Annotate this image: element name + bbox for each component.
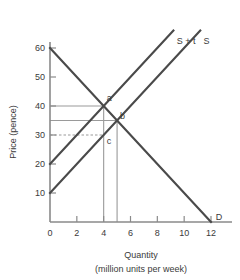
y-tick-label-10: 10 xyxy=(35,188,45,198)
x-axis-title: Quantity xyxy=(124,250,158,260)
curve-supply-with-tax xyxy=(50,31,173,164)
x-tick-label-12: 12 xyxy=(206,228,216,238)
curve-label-supply: S xyxy=(204,36,210,46)
x-tick-label-10: 10 xyxy=(179,228,189,238)
curve-label-demand: D xyxy=(216,212,223,222)
x-tick-label-0: 0 xyxy=(47,228,52,238)
y-tick-label-60: 60 xyxy=(35,43,45,53)
x-tick-label-2: 2 xyxy=(74,228,79,238)
y-axis-title: Price (pence) xyxy=(8,105,18,159)
curve-label-supply-with-tax: S + t xyxy=(177,36,196,46)
curve-supply xyxy=(50,31,200,193)
y-tick-label-20: 20 xyxy=(35,159,45,169)
y-tick-label-30: 30 xyxy=(35,130,45,140)
y-tick-label-40: 40 xyxy=(35,101,45,111)
curves-group xyxy=(50,31,211,222)
x-axis-subtitle: (million units per week) xyxy=(95,264,187,274)
x-tick-label-6: 6 xyxy=(128,228,133,238)
point-label-c: c xyxy=(107,136,112,146)
reference-lines-group xyxy=(50,106,117,222)
chart-canvas: 102030405060 024681012 DSS + t abc Quant… xyxy=(0,0,240,280)
supply-demand-tax-chart: 102030405060 024681012 DSS + t abc Quant… xyxy=(0,0,240,280)
x-axis-ticks: 024681012 xyxy=(47,216,216,238)
point-label-a: a xyxy=(107,93,112,103)
x-tick-label-4: 4 xyxy=(101,228,106,238)
y-tick-label-50: 50 xyxy=(35,72,45,82)
point-label-b: b xyxy=(120,111,125,121)
x-tick-label-8: 8 xyxy=(155,228,160,238)
axes-group xyxy=(50,42,232,222)
